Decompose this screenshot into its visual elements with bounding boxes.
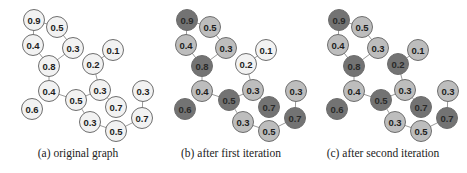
node-label: 0.5: [50, 22, 64, 33]
graph-node: 0.3: [385, 112, 406, 133]
graph-panel-c: 0.90.50.40.30.10.80.20.40.30.50.30.60.70…: [305, 0, 461, 173]
node-label: 0.5: [203, 22, 217, 33]
graph-node: 0.5: [66, 90, 87, 111]
graph-node: 0.7: [411, 97, 432, 118]
node-label: 0.9: [27, 15, 40, 26]
panel-caption: (b) after first iteration: [153, 147, 309, 159]
graph-node: 0.3: [243, 80, 264, 101]
node-label: 0.3: [398, 85, 411, 96]
graph-node: 0.1: [103, 40, 124, 61]
node-label: 0.5: [374, 95, 388, 106]
node-label: 0.4: [347, 86, 361, 97]
graph-node: 0.5: [411, 121, 432, 142]
graph-canvas: 0.90.50.40.30.10.80.20.40.30.50.30.60.70…: [153, 0, 315, 145]
node-label: 0.9: [332, 15, 345, 26]
node-label: 0.3: [83, 117, 96, 128]
node-label: 0.7: [414, 102, 427, 113]
graph-panel-a: 0.90.50.40.30.10.80.20.40.30.50.30.60.70…: [0, 0, 156, 173]
node-label: 0.3: [388, 117, 401, 128]
node-label: 0.3: [219, 43, 232, 54]
graph-node: 0.4: [344, 81, 365, 102]
graph-node: 0.3: [133, 81, 154, 102]
node-label: 0.4: [331, 40, 345, 51]
node-label: 0.2: [86, 59, 99, 70]
node-label: 0.8: [42, 61, 55, 72]
graph-node: 0.5: [47, 17, 68, 38]
graph-node: 0.3: [216, 38, 237, 59]
node-label: 0.2: [239, 59, 252, 70]
graph-node: 0.7: [106, 97, 127, 118]
node-label: 0.7: [440, 113, 453, 124]
graph-node: 0.3: [286, 81, 307, 102]
node-label: 0.5: [109, 126, 123, 137]
graph-node: 0.5: [219, 90, 240, 111]
node-label: 0.3: [371, 43, 384, 54]
graph-node: 0.8: [39, 56, 60, 77]
node-label: 0.4: [179, 40, 193, 51]
node-label: 0.8: [195, 61, 208, 72]
node-label: 0.5: [355, 22, 369, 33]
node-label: 0.6: [25, 104, 38, 115]
graph-node: 0.9: [329, 10, 350, 31]
node-label: 0.5: [69, 95, 83, 106]
graph-node: 0.2: [388, 54, 409, 75]
graph-node: 0.6: [327, 99, 348, 120]
graph-node: 0.7: [437, 108, 458, 129]
node-label: 0.7: [135, 113, 148, 124]
graph-node: 0.7: [285, 108, 306, 129]
graph-node: 0.4: [23, 35, 44, 56]
graph-node: 0.1: [408, 40, 429, 61]
node-label: 0.4: [26, 40, 40, 51]
graph-node: 0.3: [368, 38, 389, 59]
panel-caption: (c) after second iteration: [305, 147, 461, 159]
node-label: 0.9: [180, 15, 193, 26]
node-label: 0.4: [195, 86, 209, 97]
graph-node: 0.3: [63, 38, 84, 59]
graph-canvas: 0.90.50.40.30.10.80.20.40.30.50.30.60.70…: [305, 0, 467, 145]
node-label: 0.8: [347, 61, 360, 72]
panel-caption: (a) original graph: [0, 147, 156, 159]
graph-node: 0.4: [192, 81, 213, 102]
graph-canvas: 0.90.50.40.30.10.80.20.40.30.50.30.60.70…: [0, 0, 162, 145]
node-label: 0.3: [66, 43, 79, 54]
node-label: 0.3: [93, 85, 106, 96]
node-label: 0.7: [109, 102, 122, 113]
graph-panel-b: 0.90.50.40.30.10.80.20.40.30.50.30.60.70…: [153, 0, 309, 173]
graph-node: 0.3: [395, 80, 416, 101]
graph-node: 0.4: [39, 81, 60, 102]
node-label: 0.1: [259, 45, 273, 56]
graph-node: 0.3: [90, 80, 111, 101]
graph-node: 0.5: [371, 90, 392, 111]
node-label: 0.7: [262, 102, 275, 113]
graph-node: 0.6: [175, 99, 196, 120]
graph-node: 0.5: [352, 17, 373, 38]
node-label: 0.6: [330, 104, 343, 115]
node-label: 0.3: [289, 86, 302, 97]
node-label: 0.6: [178, 104, 191, 115]
graph-node: 0.3: [80, 112, 101, 133]
node-label: 0.5: [262, 126, 276, 137]
graph-node: 0.3: [233, 112, 254, 133]
node-label: 0.3: [236, 117, 249, 128]
graph-node: 0.2: [236, 54, 257, 75]
node-label: 0.3: [136, 86, 149, 97]
node-label: 0.5: [414, 126, 428, 137]
graph-node: 0.8: [344, 56, 365, 77]
node-label: 0.2: [391, 59, 404, 70]
node-label: 0.7: [288, 113, 301, 124]
graph-node: 0.6: [22, 99, 43, 120]
graph-node: 0.4: [328, 35, 349, 56]
graph-node: 0.7: [132, 108, 153, 129]
graph-node: 0.9: [177, 10, 198, 31]
graph-node: 0.9: [24, 10, 45, 31]
graph-node: 0.5: [200, 17, 221, 38]
graph-node: 0.1: [256, 40, 277, 61]
graph-node: 0.3: [438, 81, 459, 102]
node-label: 0.3: [246, 85, 259, 96]
graph-node: 0.8: [192, 56, 213, 77]
graph-node: 0.7: [259, 97, 280, 118]
graph-node: 0.2: [83, 54, 104, 75]
graph-node: 0.5: [106, 121, 127, 142]
node-label: 0.4: [42, 86, 56, 97]
graph-node: 0.5: [259, 121, 280, 142]
